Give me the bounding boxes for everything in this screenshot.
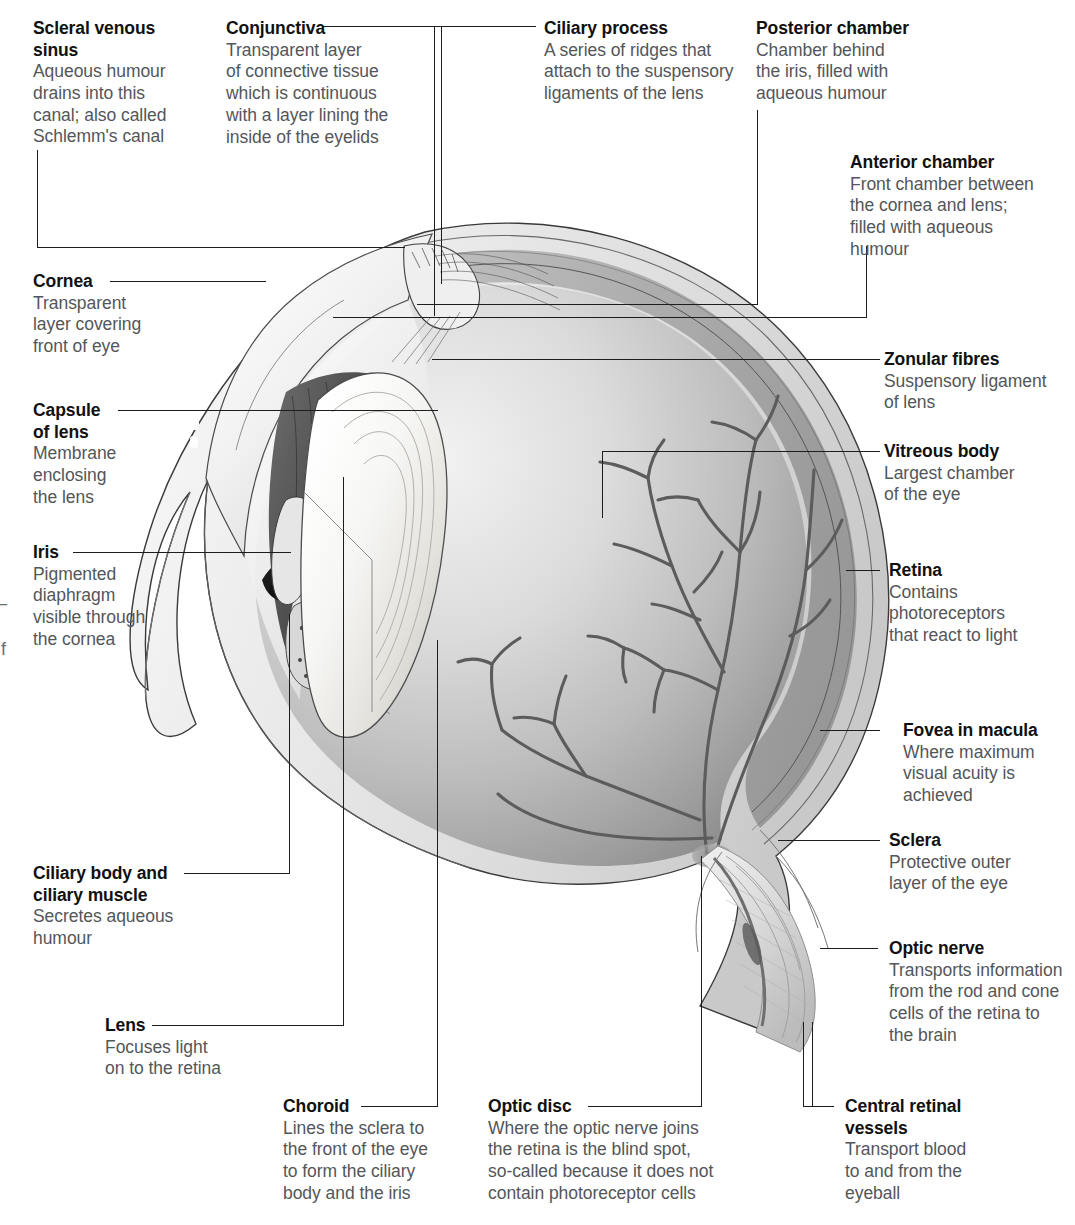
leader-sclera-h	[778, 840, 880, 841]
label-title-posterior-chamber: Posterior chamber	[756, 18, 956, 40]
leader-ciliary-process-h	[434, 26, 536, 27]
label-desc-lens: Focuses lighton to the retina	[105, 1037, 285, 1081]
label-desc-ciliary-body: Secretes aqueoushumour	[33, 906, 233, 950]
callout-sclera: Sclera Protective outerlayer of the eye	[889, 830, 1069, 895]
leader-lens-v	[343, 477, 344, 1026]
leader-posterior-chamber-h	[417, 304, 758, 305]
callout-optic-nerve: Optic nerve Transports informationfrom t…	[889, 938, 1075, 1047]
leader-scleral-venous-sinus-h	[37, 247, 405, 248]
ciliary-body	[272, 244, 560, 714]
label-title-choroid: Choroid	[283, 1096, 473, 1118]
label-title-lens: Lens	[105, 1015, 285, 1037]
callout-anterior-chamber: Anterior chamber Front chamber betweenth…	[850, 152, 1075, 261]
label-desc-anterior-chamber: Front chamber betweenthe cornea and lens…	[850, 174, 1075, 261]
label-title-cornea: Cornea	[33, 271, 193, 293]
leader-retina-h	[846, 570, 880, 571]
label-title-scleral-venous-sinus: Scleral venous	[33, 18, 223, 40]
label-title-capsule-of-lens: Capsule	[33, 400, 193, 422]
callout-ciliary-process: Ciliary process A series of ridges thata…	[544, 18, 764, 105]
choroid-and-retina-layers	[428, 250, 857, 828]
label-title-conjunctiva: Conjunctiva	[226, 18, 436, 40]
leader-fovea-h	[820, 730, 880, 731]
label-desc-cornea: Transparentlayer covering front of eye	[33, 293, 193, 358]
label-title-optic-disc: Optic disc	[488, 1096, 758, 1118]
eye-anatomy-diagram: Scleral venous sinus Aqueous humourdrain…	[0, 0, 1075, 1225]
leader-vitreous-body-v	[602, 451, 603, 518]
leader-central-retinal-vessels-v2	[812, 1022, 813, 1107]
label-title-central-retinal-vessels: Central retinal	[845, 1096, 1045, 1118]
label-title-vitreous-body: Vitreous body	[884, 441, 1069, 463]
callout-lens: Lens Focuses lighton to the retina	[105, 1015, 285, 1080]
label-desc-vitreous-body: Largest chamberof the eye	[884, 463, 1069, 507]
lens	[301, 373, 447, 737]
label-title-anterior-chamber: Anterior chamber	[850, 152, 1075, 174]
callout-retina: Retina Containsphotoreceptors that react…	[889, 560, 1075, 647]
label-desc-posterior-chamber: Chamber behindthe iris, filled with aque…	[756, 40, 956, 105]
leader-choroid-v	[437, 640, 438, 1107]
leader-vitreous-body-h	[602, 451, 880, 452]
label-title-sclera: Sclera	[889, 830, 1069, 852]
leader-zonular-fibres-h	[432, 359, 880, 360]
label-desc-optic-disc: Where the optic nerve joinsthe retina is…	[488, 1118, 758, 1205]
label-title-optic-nerve: Optic nerve	[889, 938, 1075, 960]
callout-conjunctiva: Conjunctiva Transparent layerof connecti…	[226, 18, 436, 148]
leader-optic-disc-v	[701, 856, 702, 1107]
sclera-shell	[130, 223, 889, 1030]
leader-optic-nerve-h	[820, 948, 878, 949]
callout-scleral-venous-sinus: Scleral venous sinus Aqueous humourdrain…	[33, 18, 223, 148]
callout-optic-disc: Optic disc Where the optic nerve joinsth…	[488, 1096, 758, 1205]
callout-capsule-of-lens: Capsule of lens Membraneenclosing the le…	[33, 400, 193, 508]
label-desc-sclera: Protective outerlayer of the eye	[889, 852, 1069, 896]
label-title2-central-retinal-vessels: vessels	[845, 1118, 1045, 1140]
page-bleed-letter: f	[1, 640, 6, 658]
leader-conjunctiva-v	[441, 26, 442, 284]
label-desc-optic-nerve: Transports informationfrom the rod and c…	[889, 960, 1075, 1047]
leader-scleral-venous-sinus-v	[37, 150, 38, 248]
anterior-chamber-region	[246, 302, 432, 700]
label-desc-central-retinal-vessels: Transport bloodto and from the eyeball	[845, 1139, 1045, 1204]
callout-posterior-chamber: Posterior chamber Chamber behindthe iris…	[756, 18, 956, 105]
label-desc-ciliary-process: A series of ridges thatattach to the sus…	[544, 40, 764, 105]
callout-cornea: Cornea Transparentlayer covering front o…	[33, 271, 193, 358]
callout-choroid: Choroid Lines the sclera tothe front of …	[283, 1096, 473, 1205]
callout-zonular-fibres: Zonular fibres Suspensory ligamentof len…	[884, 349, 1075, 414]
label-title-retina: Retina	[889, 560, 1075, 582]
leader-ciliary-body-v	[289, 614, 290, 874]
callout-vitreous-body: Vitreous body Largest chamberof the eye	[884, 441, 1069, 506]
label-title-ciliary-process: Ciliary process	[544, 18, 764, 40]
label-title-fovea-in-macula: Fovea in macula	[903, 720, 1075, 742]
label-desc-iris: Pigmenteddiaphragm visible throughthe co…	[33, 564, 203, 651]
label-title2-capsule-of-lens: of lens	[33, 422, 193, 444]
cornea	[186, 234, 432, 556]
leader-posterior-chamber-v	[757, 110, 758, 305]
label-desc-fovea-in-macula: Where maximumvisual acuity is achieved	[903, 742, 1075, 807]
leader-central-retinal-vessels-h	[803, 1106, 834, 1107]
callout-ciliary-body-and-ciliary-muscle: Ciliary body and ciliary muscle Secretes…	[33, 863, 233, 950]
label-title2-scleral-venous-sinus: sinus	[33, 40, 223, 62]
label-desc-retina: Containsphotoreceptors that react to lig…	[889, 582, 1075, 647]
optic-disc	[692, 844, 732, 868]
label-desc-choroid: Lines the sclera tothe front of the eye …	[283, 1118, 473, 1205]
label-title2-ciliary-body: ciliary muscle	[33, 885, 233, 907]
label-desc-zonular-fibres: Suspensory ligamentof lens	[884, 371, 1075, 415]
central-retinal-vessels	[458, 396, 842, 855]
label-title-zonular-fibres: Zonular fibres	[884, 349, 1075, 371]
callout-fovea-in-macula: Fovea in macula Where maximumvisual acui…	[903, 720, 1075, 807]
callout-central-retinal-vessels: Central retinal vessels Transport bloodt…	[845, 1096, 1045, 1204]
label-title-iris: Iris	[33, 542, 203, 564]
label-desc-capsule-of-lens: Membraneenclosing the lens	[33, 443, 193, 508]
page-bleed-dash: –	[0, 594, 7, 612]
label-title-ciliary-body: Ciliary body and	[33, 863, 233, 885]
leader-central-retinal-vessels-v1	[803, 1022, 804, 1107]
callout-iris: Iris Pigmenteddiaphragm visible throught…	[33, 542, 203, 651]
label-desc-conjunctiva: Transparent layerof connective tissue wh…	[226, 40, 436, 149]
leader-anterior-chamber-h	[333, 317, 867, 318]
label-desc-scleral-venous-sinus: Aqueous humourdrains into this canal; al…	[33, 61, 223, 148]
optic-nerve	[700, 846, 815, 1052]
vitreous-body-region	[255, 285, 807, 866]
